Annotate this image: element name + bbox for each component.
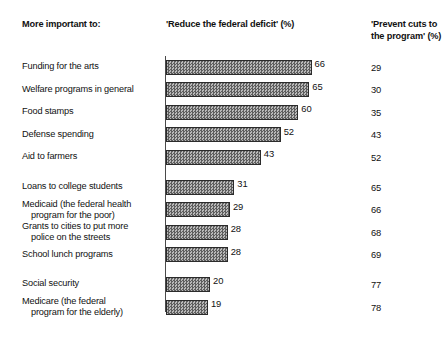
chart-row: Loans to college students3165 [0, 176, 446, 199]
bar-value-label: 60 [301, 104, 311, 114]
row-label: Grants to cities to put morepolice on th… [22, 221, 162, 243]
bar-value-label: 31 [237, 179, 247, 189]
bar [166, 225, 228, 240]
bar [166, 150, 261, 165]
bar-container [166, 105, 298, 120]
row-label: Aid to farmers [22, 151, 162, 162]
bar [166, 277, 210, 292]
bar-container [166, 300, 208, 315]
plot-area: Funding for the arts6629Welfare programs… [0, 52, 446, 338]
bar [166, 247, 228, 262]
bar-value-label: 43 [264, 149, 274, 159]
chart-row: Grants to cities to put morepolice on th… [0, 221, 446, 244]
bar-value-label: 20 [213, 276, 223, 286]
bar-container [166, 225, 228, 240]
prevent-cuts-value: 35 [371, 108, 401, 118]
bar-value-label: 28 [231, 224, 241, 234]
bar-value-label: 29 [233, 202, 243, 212]
bar-container [166, 202, 230, 217]
bar [166, 127, 281, 142]
row-label: Social security [22, 278, 162, 289]
bar [166, 202, 230, 217]
bar-value-label: 52 [284, 127, 294, 137]
prevent-cuts-value: 66 [371, 205, 401, 215]
bar-container [166, 127, 281, 142]
bar-chart-figure: More important to: 'Reduce the federal d… [0, 0, 446, 338]
chart-row: Defense spending5243 [0, 124, 446, 147]
chart-row: Food stamps6035 [0, 101, 446, 124]
bar-container [166, 60, 312, 75]
prevent-cuts-value: 52 [371, 153, 401, 163]
prevent-cuts-value: 77 [371, 280, 401, 290]
bar [166, 300, 208, 315]
bar-value-label: 28 [231, 247, 241, 257]
row-label: Medicaid (the federal healthprogram for … [22, 199, 162, 221]
row-label: Food stamps [22, 106, 162, 117]
chart-row: Medicare (the federalprogram for the eld… [0, 296, 446, 319]
header-more-important-to: More important to: [22, 19, 162, 31]
bar-container [166, 150, 261, 165]
bar-container [166, 82, 309, 97]
chart-row: Social security2077 [0, 273, 446, 296]
header-prevent-cuts-to-the-program: 'Prevent cuts to the program' (%) [371, 19, 446, 42]
row-label: Defense spending [22, 129, 162, 140]
bar-value-label: 19 [211, 299, 221, 309]
prevent-cuts-value: 30 [371, 85, 401, 95]
bar-value-label: 65 [312, 82, 322, 92]
prevent-cuts-value: 68 [371, 228, 401, 238]
prevent-cuts-value: 29 [371, 63, 401, 73]
row-label: Loans to college students [22, 181, 162, 192]
row-label-line2: police on the streets [22, 232, 162, 243]
chart-row: School lunch programs2869 [0, 244, 446, 267]
row-label: Welfare programs in general [22, 84, 162, 95]
bar [166, 105, 298, 120]
row-label: School lunch programs [22, 249, 162, 260]
chart-row: Welfare programs in general6530 [0, 79, 446, 102]
bar [166, 60, 312, 75]
row-label: Funding for the arts [22, 61, 162, 72]
prevent-cuts-value: 78 [371, 303, 401, 313]
row-label: Medicare (the federalprogram for the eld… [22, 296, 162, 318]
bar-container [166, 247, 228, 262]
chart-row: Funding for the arts6629 [0, 56, 446, 79]
bar-container [166, 180, 234, 195]
row-label-line2: program for the elderly) [22, 307, 162, 318]
prevent-cuts-value: 69 [371, 250, 401, 260]
prevent-cuts-value: 65 [371, 183, 401, 193]
row-label-line2: program for the poor) [22, 210, 162, 221]
bar [166, 180, 234, 195]
bar-value-label: 66 [315, 59, 325, 69]
header-reduce-the-federal-deficit: 'Reduce the federal deficit' (%) [166, 19, 362, 31]
bar [166, 82, 309, 97]
column-headers: More important to: 'Reduce the federal d… [0, 0, 446, 52]
chart-row: Aid to farmers4352 [0, 146, 446, 169]
bar-container [166, 277, 210, 292]
prevent-cuts-value: 43 [371, 130, 401, 140]
chart-row: Medicaid (the federal healthprogram for … [0, 199, 446, 222]
